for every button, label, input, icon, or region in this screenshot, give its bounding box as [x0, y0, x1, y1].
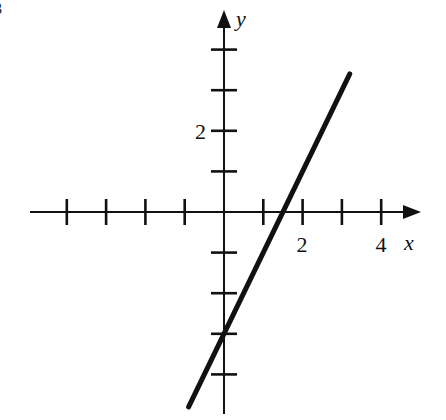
y-axis-arrow-icon — [217, 10, 231, 28]
x-tick-label-2: 2 — [297, 232, 308, 257]
x-tick-label-4: 4 — [376, 232, 387, 257]
x-axis-arrow-icon — [403, 205, 421, 219]
x-axis-label: x — [403, 230, 414, 255]
coordinate-plane: 2 4 x 2 y — [0, 0, 446, 420]
x-axis — [30, 205, 421, 219]
y-tick-label-2: 2 — [195, 119, 206, 144]
y-axis-label: y — [234, 6, 246, 31]
plotted-line — [189, 74, 350, 407]
